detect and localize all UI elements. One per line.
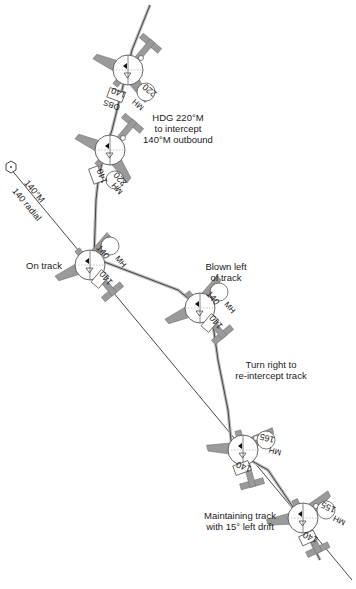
maintaining-annotation: Maintaining track with 15° left drift	[200, 510, 280, 532]
maintaining-line1: Maintaining track	[200, 510, 280, 521]
vor-hexagon-icon	[6, 161, 16, 173]
aircraft-5	[205, 422, 286, 496]
intercept-line3: 140°M outbound	[133, 134, 223, 145]
intercept-annotation: HDG 220°M to intercept 140°M outbound	[133, 112, 223, 145]
on-track-annotation: On track	[26, 260, 62, 271]
maintaining-line2: with 15° left drift	[200, 521, 280, 532]
blown-left-line2: of track	[196, 272, 256, 283]
intercept-line2: to intercept	[133, 123, 223, 134]
aircraft-4	[160, 270, 250, 359]
turn-right-line1: Turn right to	[226, 359, 316, 370]
aircraft-1	[88, 19, 178, 108]
turn-right-annotation: Turn right to re-intercept track	[226, 359, 316, 381]
blown-left-annotation: Blown left of track	[196, 261, 256, 283]
navigation-diagram	[0, 0, 356, 589]
blown-left-line1: Blown left	[196, 261, 256, 272]
turn-right-line2: re-intercept track	[226, 370, 316, 381]
intercept-line1: HDG 220°M	[133, 112, 223, 123]
